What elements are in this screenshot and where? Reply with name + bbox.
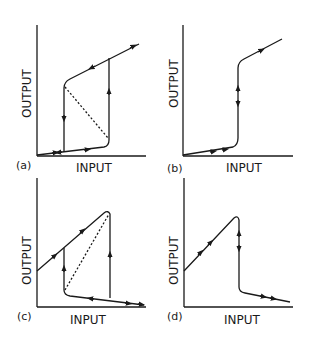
panel-a: [37, 25, 146, 156]
y-axis-label-b: OUTPUT: [167, 58, 181, 108]
panel-label-c: (c): [17, 310, 32, 323]
panel-label-a: (a): [16, 159, 31, 172]
x-axis-label-b: INPUT: [226, 161, 263, 175]
panel-label-d: (d): [167, 310, 183, 323]
hysteresis-figure: (a) INPUT OUTPUT (b) INPUT OUTPUT (c) IN…: [0, 0, 310, 347]
curve: [183, 39, 282, 155]
y-axis-label-d: OUTPUT: [167, 235, 181, 285]
panel-label-b: (b): [167, 162, 183, 175]
y-axis-label-a: OUTPUT: [20, 68, 34, 118]
panel-c: [37, 178, 146, 307]
curve: [184, 217, 290, 302]
lower-branch: [37, 58, 109, 155]
x-axis-label-a: INPUT: [76, 161, 113, 175]
unstable-branch: [65, 87, 108, 138]
low-branch: [64, 248, 144, 305]
panel-b: [183, 25, 293, 156]
x-axis-label-d: INPUT: [224, 313, 261, 327]
y-axis-label-c: OUTPUT: [20, 235, 34, 285]
unstable-branch: [65, 214, 109, 290]
panel-d: [184, 178, 293, 307]
high-branch: [37, 212, 110, 298]
upper-branch: [64, 44, 139, 152]
x-axis-label-c: INPUT: [70, 313, 107, 327]
